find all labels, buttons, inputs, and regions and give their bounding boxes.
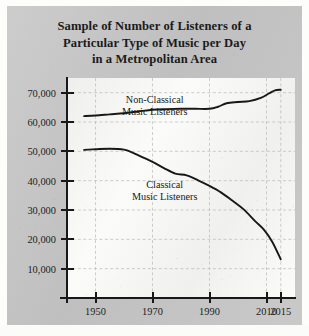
x-tick-label-1970: 1970	[142, 306, 163, 317]
scan-speck	[36, 231, 37, 232]
y-tick-10000	[61, 268, 74, 270]
scan-speck	[215, 23, 216, 24]
scan-speck	[147, 234, 149, 235]
y-tick-label-40000: 40,000	[27, 175, 56, 186]
scan-speck	[202, 264, 203, 265]
scan-speck	[237, 100, 238, 101]
chart-plot-area: 10,00020,00030,00040,00050,00060,00070,0…	[60, 78, 295, 301]
scan-speck	[155, 130, 157, 131]
scan-speck	[219, 97, 220, 98]
scan-speck	[120, 286, 122, 287]
scan-speck	[214, 38, 216, 39]
scan-speck	[157, 201, 158, 202]
x-tick-1950	[95, 292, 97, 303]
scan-speck	[221, 279, 223, 280]
scan-speck	[128, 98, 129, 99]
scan-speck	[50, 65, 52, 66]
scan-speck	[241, 289, 242, 290]
scan-speck	[291, 239, 292, 240]
chart-title: Sample of Number of Listeners of a Parti…	[7, 18, 302, 68]
x-tick-2010	[266, 292, 268, 303]
scan-speck	[100, 241, 101, 242]
series-annotation-classical-line-1: Classical	[132, 179, 197, 191]
scan-speck	[181, 16, 183, 17]
scan-speck	[136, 320, 137, 321]
screenshot-root: Sample of Number of Listeners of a Parti…	[0, 0, 309, 336]
series-annotation-non-classical-line-1: Non-Classical	[122, 94, 187, 106]
scan-speck	[296, 234, 297, 235]
series-annotation-classical-line-2: Music Listeners	[132, 191, 197, 203]
series-annotation-non-classical: Non-Classical Music Listeners	[122, 94, 187, 118]
scan-speck	[81, 31, 82, 32]
x-axis-origin-tick	[66, 292, 68, 303]
y-tick-30000	[61, 209, 74, 211]
scan-speck	[176, 258, 178, 259]
scan-speck	[86, 34, 87, 35]
scan-speck	[117, 267, 118, 268]
y-axis-line	[66, 77, 68, 299]
scan-speck	[165, 114, 166, 115]
scan-speck	[116, 139, 117, 140]
scan-speck	[31, 39, 32, 40]
scan-speck	[229, 276, 231, 277]
scan-speck	[189, 59, 190, 60]
scan-speck	[133, 155, 134, 156]
scan-speck	[112, 70, 113, 71]
scan-speck	[256, 200, 258, 201]
scan-speck	[239, 266, 240, 267]
scan-speck	[53, 199, 55, 200]
scan-speck	[116, 278, 118, 279]
scan-speck	[187, 168, 188, 169]
scan-speck	[175, 149, 176, 150]
scan-speck	[186, 67, 187, 68]
scan-speck	[19, 228, 21, 229]
x-tick-1970	[152, 292, 154, 303]
y-tick-70000	[61, 92, 74, 94]
scan-speck	[220, 89, 222, 90]
scan-speck	[63, 110, 64, 111]
x-tick-label-2015: 2015	[270, 306, 291, 317]
scan-speck	[97, 179, 98, 180]
scan-speck	[255, 140, 256, 141]
scan-speck	[159, 231, 160, 232]
x-tick-2015	[280, 292, 282, 303]
scan-speck	[46, 163, 47, 164]
scan-speck	[161, 176, 162, 177]
page-bottom-strip	[0, 325, 309, 336]
scan-speck	[283, 311, 284, 312]
scan-speck	[201, 146, 202, 147]
scan-speck	[221, 157, 223, 158]
y-tick-label-70000: 70,000	[27, 87, 56, 98]
scan-speck	[175, 10, 176, 11]
scan-speck	[86, 295, 87, 296]
series-annotation-classical: Classical Music Listeners	[132, 179, 197, 203]
scan-speck	[203, 272, 204, 273]
scan-speck	[151, 139, 152, 140]
scan-speck	[205, 137, 206, 138]
scan-speck	[233, 229, 234, 230]
x-tick-1990	[209, 292, 211, 303]
scan-speck	[17, 244, 18, 245]
scan-speck	[129, 284, 131, 285]
scan-speck	[234, 250, 235, 251]
scan-speck	[79, 10, 80, 11]
scan-speck	[63, 182, 64, 183]
scan-speck	[106, 89, 108, 90]
scan-speck	[292, 206, 294, 207]
chart-card: Sample of Number of Listeners of a Parti…	[7, 6, 302, 325]
scan-speck	[116, 289, 117, 290]
series-annotation-non-classical-line-2: Music Listeners	[122, 106, 187, 118]
scan-speck	[247, 222, 248, 223]
y-tick-label-60000: 60,000	[27, 117, 56, 128]
scan-speck	[82, 145, 83, 146]
scan-speck	[159, 190, 160, 191]
scan-speck	[267, 37, 268, 38]
scan-speck	[43, 189, 44, 190]
scan-speck	[233, 54, 235, 55]
scan-speck	[55, 218, 56, 219]
scan-speck	[186, 188, 187, 189]
y-tick-20000	[61, 238, 74, 240]
scan-speck	[42, 291, 43, 292]
scan-speck	[211, 272, 212, 273]
y-tick-label-20000: 20,000	[27, 234, 56, 245]
